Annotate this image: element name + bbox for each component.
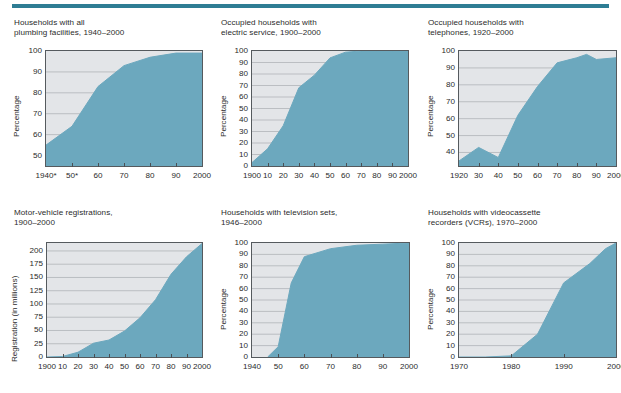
x-tick-mark [283, 163, 284, 167]
x-tick-mark [557, 163, 558, 167]
y-tick-label: 0 [218, 162, 248, 170]
y-tick-label: 40 [425, 148, 455, 156]
y-tick-label: 100 [218, 47, 248, 55]
x-tick-mark [346, 163, 347, 167]
x-tick-label: 1980 [495, 363, 527, 371]
y-tick-label: 50 [218, 105, 248, 113]
y-tick-label: 50 [12, 152, 42, 160]
y-tick-label: 0 [218, 353, 248, 361]
y-tick-label: 30 [218, 128, 248, 136]
y-tick-label: 60 [425, 285, 455, 293]
y-tick-label: 150 [13, 273, 43, 281]
plot-area-television: Percentage 1009080706050403020100 194050… [207, 202, 414, 393]
y-tick-label: 60 [218, 93, 248, 101]
chart-panel-motor-vehicles: Motor-vehicle registrations, 1900–2000 R… [0, 202, 207, 393]
y-tick-label: 200 [13, 247, 43, 255]
x-tick-mark [124, 163, 125, 167]
x-tick-mark [109, 354, 110, 358]
x-tick-mark [63, 354, 64, 358]
y-tick-label: 70 [425, 98, 455, 106]
x-tick-mark [331, 354, 332, 358]
x-tick-label: 1990 [548, 363, 580, 371]
y-tick-label: 50 [13, 326, 43, 334]
y-tick-label: 25 [13, 340, 43, 348]
y-tick-label: 90 [425, 250, 455, 258]
y-tick-label: 50 [425, 296, 455, 304]
x-tick-mark [156, 354, 157, 358]
y-tick-label: 100 [218, 239, 248, 247]
chart-panel-plumbing: Households with all plumbing facilities,… [0, 12, 207, 202]
y-tick-label: 175 [13, 260, 43, 268]
x-tick-mark [361, 163, 362, 167]
y-tick-label: 90 [218, 250, 248, 258]
x-tick-mark [383, 354, 384, 358]
y-tick-label: 40 [218, 116, 248, 124]
y-tick-label: 90 [218, 59, 248, 67]
y-tick-label: 70 [425, 273, 455, 281]
y-tick-label: 90 [425, 64, 455, 72]
x-tick-mark [299, 163, 300, 167]
plot-area-plumbing: Percentage 1009080706050 1940*50*6070809… [0, 12, 207, 202]
plot-box [458, 242, 617, 358]
x-tick-mark [564, 354, 565, 358]
x-tick-mark [304, 354, 305, 358]
y-tick-label: 100 [425, 239, 455, 247]
x-tick-mark [278, 354, 279, 358]
x-tick-mark [78, 354, 79, 358]
chart-panel-vcr: Households with videocassette recorders … [414, 202, 621, 393]
plot-box [251, 242, 410, 358]
x-tick-label: 2000 [600, 363, 621, 371]
y-tick-label: 40 [425, 307, 455, 315]
chart-panel-telephones: Occupied households with telephones, 192… [414, 12, 621, 202]
x-tick-mark [511, 354, 512, 358]
y-tick-label: 10 [425, 342, 455, 350]
y-tick-label: 80 [12, 89, 42, 97]
header-rule [12, 4, 609, 8]
x-tick-mark [577, 163, 578, 167]
plot-area-motor-vehicles: Registration (in millions) 2001751501251… [0, 202, 207, 393]
y-tick-label: 100 [12, 47, 42, 55]
plot-box [458, 50, 617, 167]
chart-panel-electric: Occupied households with electric servic… [207, 12, 414, 202]
y-tick-label: 80 [425, 262, 455, 270]
x-tick-mark [72, 163, 73, 167]
x-tick-mark [140, 354, 141, 358]
x-tick-mark [171, 354, 172, 358]
x-tick-mark [392, 163, 393, 167]
chart-grid: Households with all plumbing facilities,… [0, 12, 621, 393]
y-tick-label: 100 [13, 300, 43, 308]
y-tick-label: 100 [425, 47, 455, 55]
x-tick-mark [150, 163, 151, 167]
plot-area-vcr: Percentage 1009080706050403020100 197019… [414, 202, 621, 393]
y-tick-label: 10 [218, 151, 248, 159]
y-tick-label: 60 [425, 115, 455, 123]
y-tick-label: 75 [13, 313, 43, 321]
x-tick-mark [596, 163, 597, 167]
x-tick-mark [176, 163, 177, 167]
y-tick-label: 40 [218, 307, 248, 315]
y-tick-label: 125 [13, 287, 43, 295]
plot-box [251, 50, 409, 167]
y-tick-label: 20 [218, 330, 248, 338]
x-tick-mark [498, 163, 499, 167]
x-tick-mark [314, 163, 315, 167]
plot-area-electric: Percentage 1009080706050403020100 190010… [207, 12, 414, 202]
x-tick-mark [479, 163, 480, 167]
y-tick-label: 80 [218, 70, 248, 78]
chart-panel-television: Households with television sets, 1946–20… [207, 202, 414, 393]
y-tick-label: 50 [425, 132, 455, 140]
x-tick-mark [125, 354, 126, 358]
y-tick-label: 0 [425, 353, 455, 361]
y-tick-label: 70 [218, 273, 248, 281]
y-tick-label: 50 [218, 296, 248, 304]
x-tick-mark [268, 163, 269, 167]
y-tick-label: 20 [425, 330, 455, 338]
y-tick-label: 80 [425, 81, 455, 89]
x-tick-mark [538, 163, 539, 167]
y-tick-label: 0 [13, 353, 43, 361]
x-tick-mark [357, 354, 358, 358]
x-tick-mark [187, 354, 188, 358]
x-tick-mark [98, 163, 99, 167]
y-tick-label: 70 [218, 82, 248, 90]
x-tick-mark [518, 163, 519, 167]
